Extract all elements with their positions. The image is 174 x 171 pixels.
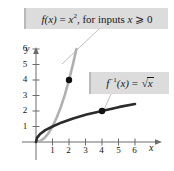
- x-tick-label-2: 2: [63, 145, 74, 155]
- finv-exponent: −1: [109, 76, 116, 84]
- x-tick-label-1: 1: [47, 145, 58, 155]
- y-tick-label-4: 4: [20, 74, 30, 84]
- radical-sign: √x: [141, 77, 154, 90]
- curve-parabola: [36, 49, 76, 142]
- callout-inverse-definition: f−1(x) = √x: [89, 72, 169, 94]
- fx-var: x: [128, 12, 133, 24]
- fx-equals: =: [60, 12, 66, 24]
- finv-arg: (x): [117, 77, 129, 89]
- y-tick-label-6: 6: [20, 43, 30, 53]
- x-tick-label-6: 6: [129, 145, 140, 155]
- fx-arg: (x): [45, 12, 57, 24]
- curve-sqrt: [36, 104, 135, 142]
- callout-fx-text: f(x) = x2, for inputs x ⩾ 0: [41, 12, 152, 26]
- fx-tail: , for inputs: [77, 12, 125, 24]
- finv-radicand: x: [147, 77, 154, 90]
- y-tick-label-1: 1: [20, 121, 30, 131]
- y-tick-label-3: 3: [20, 90, 30, 100]
- callout-finv-text: f−1(x) = √x: [106, 76, 153, 89]
- leader-line-fx: [62, 29, 99, 64]
- x-tick-label-4: 4: [96, 145, 107, 155]
- x-axis-arrow: [155, 139, 162, 145]
- math-figure: y x 1 2 3 4 5 6 1 2 3 4 5 6 f(x) = x2, f…: [0, 0, 174, 171]
- y-axis-arrow: [33, 47, 39, 54]
- x-tick-label-5: 5: [113, 145, 124, 155]
- finv-equals: =: [132, 77, 138, 89]
- y-tick-label-2: 2: [20, 105, 30, 115]
- y-tick-label-5: 5: [20, 59, 30, 69]
- fx-relation: ⩾: [135, 12, 144, 24]
- point-4-2: [99, 108, 105, 114]
- callout-function-definition: f(x) = x2, for inputs x ⩾ 0: [24, 8, 168, 29]
- fx-bound: 0: [147, 12, 153, 24]
- point-2-4: [66, 77, 72, 83]
- x-tick-label-3: 3: [80, 145, 91, 155]
- x-axis-label: x: [149, 142, 153, 153]
